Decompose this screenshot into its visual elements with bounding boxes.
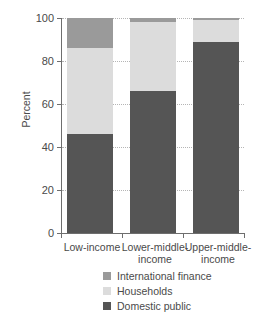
x-axis-tick-1 [122, 233, 123, 238]
y-axis-tick-label-40: 40 [14, 142, 54, 153]
plot-area [62, 18, 244, 233]
bar-lower-middle-income [130, 18, 176, 233]
x-axis-line [61, 233, 245, 234]
x-axis-label-line: income [179, 253, 257, 265]
x-axis-tick-3 [244, 233, 245, 238]
bar-low-income [67, 18, 113, 233]
legend-item-households: Households [103, 283, 277, 298]
y-axis-tick-label-100: 100 [14, 13, 54, 24]
bar-segment-households [67, 48, 113, 134]
legend-swatch-icon [103, 287, 111, 295]
bar-segment-households [130, 22, 176, 91]
chart-legend: International finance Households Domesti… [103, 268, 277, 313]
y-axis-tick-label-60: 60 [14, 99, 54, 110]
legend-item-domestic-public: Domestic public [103, 298, 277, 313]
bar-segment-households [193, 20, 239, 42]
y-axis-tick-label-20: 20 [14, 185, 54, 196]
legend-label: Households [117, 285, 172, 297]
x-axis-label-upper-middle-income: Upper-middle- income [179, 241, 257, 265]
y-axis-tick-label-80: 80 [14, 56, 54, 67]
bar-segment-international-finance [67, 18, 113, 48]
legend-swatch-icon [103, 302, 111, 310]
x-axis-label-line: Upper-middle- [179, 241, 257, 253]
bar-segment-domestic-public [130, 91, 176, 233]
legend-swatch-icon [103, 272, 111, 280]
x-axis-tick-2 [183, 233, 184, 238]
legend-item-international-finance: International finance [103, 268, 277, 283]
bar-segment-domestic-public [193, 42, 239, 233]
y-axis-tick-label-0: 0 [14, 228, 54, 239]
legend-label: Domestic public [117, 300, 191, 312]
bar-upper-middle-income [193, 18, 239, 233]
bar-segment-domestic-public [67, 134, 113, 233]
x-axis-tick-0 [61, 233, 62, 238]
legend-label: International finance [117, 270, 212, 282]
stacked-bar-chart: Percent 100 80 60 40 20 0 [0, 0, 277, 316]
